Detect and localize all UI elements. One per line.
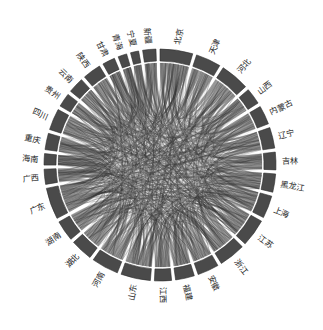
node-label-jiangxi: 江西 bbox=[158, 287, 168, 303]
chord-diagram-canvas: 北京天津河北山西内蒙古辽宁吉林黑龙江上海江苏浙江安徽福建江西山东河南湖北湖南广东… bbox=[0, 0, 323, 330]
node-arc-guangxi[interactable] bbox=[44, 169, 57, 185]
node-label-jilin: 吉林 bbox=[282, 155, 298, 166]
node-arc-hainan[interactable] bbox=[44, 154, 57, 165]
node-label-text: 江西 bbox=[158, 287, 168, 303]
node-label-hainan: 海南 bbox=[22, 153, 38, 164]
node-arc-xinjiang[interactable] bbox=[143, 49, 157, 62]
node-arc-jilin[interactable] bbox=[263, 152, 276, 170]
chords-layer bbox=[58, 63, 262, 267]
node-label-text: 新疆 bbox=[142, 27, 153, 44]
node-arc-heilongjiang[interactable] bbox=[261, 173, 276, 192]
node-label-xinjiang: 新疆 bbox=[142, 27, 153, 44]
node-label-text: 海南 bbox=[22, 153, 38, 164]
node-label-guangxi: 广西 bbox=[22, 172, 39, 184]
node-label-text: 广西 bbox=[22, 172, 39, 184]
chord-diagram-figure: 北京天津河北山西内蒙古辽宁吉林黑龙江上海江苏浙江安徽福建江西山东河南湖北湖南广东… bbox=[0, 0, 323, 330]
node-arc-jiangxi[interactable] bbox=[154, 268, 171, 281]
node-label-text: 吉林 bbox=[282, 155, 298, 166]
